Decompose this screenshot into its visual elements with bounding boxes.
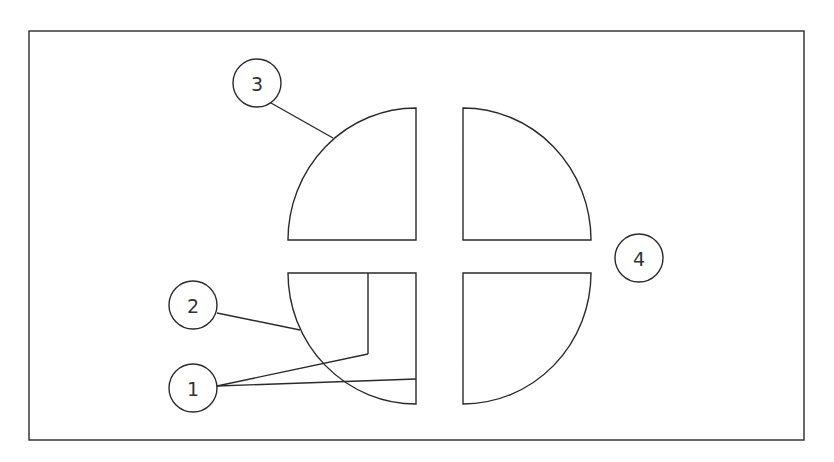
leader-line-2 xyxy=(217,313,300,330)
callout-2: 2 xyxy=(169,281,217,329)
callout-1: 1 xyxy=(169,364,217,412)
quadrant-top-right xyxy=(463,108,591,240)
callout-4-label: 4 xyxy=(633,248,645,270)
leader-line-3 xyxy=(271,103,333,138)
callout-2-label: 2 xyxy=(187,295,199,317)
quadrant-bottom-left xyxy=(288,273,416,404)
callout-4: 4 xyxy=(615,234,663,282)
quadrant-bottom-right xyxy=(463,273,591,404)
quadrant-top-left xyxy=(288,108,416,240)
callout-3: 3 xyxy=(233,59,281,107)
callout-3-label: 3 xyxy=(251,73,263,95)
diagram-canvas: 3 2 1 4 xyxy=(0,0,834,462)
callout-1-label: 1 xyxy=(187,378,199,400)
